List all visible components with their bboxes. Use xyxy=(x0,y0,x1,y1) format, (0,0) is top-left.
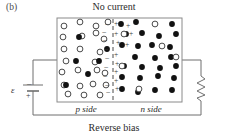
hole-carrier xyxy=(94,67,100,73)
negative-ion-sign: – xyxy=(105,87,110,96)
figure-title: No current xyxy=(0,2,228,12)
hole-carrier xyxy=(60,34,66,40)
negative-ion-sign: – xyxy=(102,71,107,80)
hole-carrier xyxy=(63,58,69,64)
resistor-zigzag xyxy=(197,76,205,101)
hole-carrier xyxy=(77,83,83,89)
electron-carrier xyxy=(119,74,125,80)
electron-carrier xyxy=(171,75,177,81)
emf-label: ε xyxy=(11,86,15,95)
hole-carrier xyxy=(59,69,65,75)
electron-carrier xyxy=(157,65,163,71)
electron-carrier xyxy=(156,33,162,39)
hole-carrier xyxy=(173,54,179,60)
electron-carrier xyxy=(173,31,179,37)
hole-carrier xyxy=(159,43,165,49)
electron-carrier xyxy=(137,75,143,81)
negative-ion-sign: – xyxy=(104,53,109,62)
positive-ion-sign: + xyxy=(115,84,119,93)
positive-ion-sign: + xyxy=(114,50,118,59)
positive-ion-sign: + xyxy=(125,40,129,49)
battery-negative-sign: – xyxy=(27,79,32,88)
hole-carrier xyxy=(77,19,83,25)
electron-carrier xyxy=(152,55,158,61)
electron-carrier xyxy=(155,73,161,79)
electron-carrier xyxy=(63,82,69,88)
positive-ion-sign: + xyxy=(114,67,118,76)
n-side-label: n side xyxy=(120,105,182,114)
hole-carrier xyxy=(81,92,87,98)
hole-carrier xyxy=(93,23,99,29)
positive-ion-sign: + xyxy=(114,19,118,28)
electron-carrier xyxy=(149,42,155,48)
hole-carrier xyxy=(119,63,125,69)
hole-carrier xyxy=(136,86,142,92)
hole-carrier xyxy=(61,46,67,52)
wire-top-right xyxy=(182,60,201,76)
wire-top-left xyxy=(33,60,57,83)
battery-positive-sign: + xyxy=(26,92,31,100)
negative-ion-sign: – xyxy=(103,44,108,53)
hole-carrier xyxy=(93,30,99,36)
circuit-diagram: –––––––––+++++++++++ xyxy=(0,0,228,138)
positive-ion-sign: + xyxy=(114,29,118,38)
hole-carrier xyxy=(90,81,96,87)
electron-carrier xyxy=(139,30,145,36)
electron-carrier xyxy=(76,34,82,40)
electron-carrier xyxy=(96,58,102,64)
electron-carrier xyxy=(118,21,124,27)
hole-carrier xyxy=(75,67,81,73)
hole-carrier xyxy=(97,92,103,98)
hole-carrier xyxy=(65,91,71,97)
reverse-bias-pn-junction-figure: –––––––––+++++++++++ (b) No current Reve… xyxy=(0,0,228,138)
figure-caption: Reverse bias xyxy=(0,123,228,133)
hole-carrier xyxy=(152,21,158,27)
electron-carrier xyxy=(169,21,175,27)
hole-carrier xyxy=(97,49,103,55)
electron-carrier xyxy=(73,58,79,64)
electron-carrier xyxy=(167,44,173,50)
electron-carrier xyxy=(169,87,175,93)
electron-carrier xyxy=(133,19,139,25)
electron-carrier xyxy=(119,86,125,92)
electron-carrier xyxy=(132,54,138,60)
negative-ion-sign: – xyxy=(102,35,107,44)
hole-carrier xyxy=(77,46,83,52)
positive-ion-sign: + xyxy=(116,38,120,47)
electron-carrier xyxy=(152,87,158,93)
electron-carrier xyxy=(139,64,145,70)
electron-carrier xyxy=(135,43,141,49)
resistor-symbol xyxy=(197,76,205,101)
hole-carrier xyxy=(61,23,67,29)
negative-ion-sign: – xyxy=(103,62,108,71)
positive-ion-sign: + xyxy=(129,29,133,38)
electron-carrier xyxy=(173,63,179,69)
electron-carrier xyxy=(85,71,91,77)
hole-carrier xyxy=(121,31,127,37)
p-side-label: p side xyxy=(57,105,115,114)
